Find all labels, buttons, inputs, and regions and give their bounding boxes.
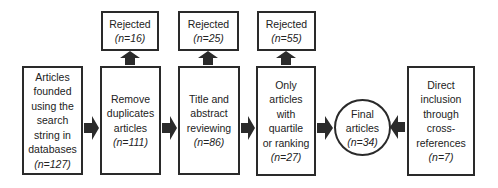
step-remove-duplicates: Remove duplicates articles (n=111)	[100, 66, 161, 175]
direct-text-line: cross-	[427, 121, 456, 136]
direct-inclusion-box: Direct inclusion through cross- referenc…	[407, 66, 475, 176]
step-text-line: articles	[114, 121, 147, 136]
rejected-box-3: Rejected (n=55)	[257, 11, 316, 51]
step-text-line: articles	[269, 92, 302, 107]
step-count: (n=127)	[34, 157, 70, 172]
rejected-label: Rejected	[266, 17, 307, 32]
direct-text-line: inclusion	[421, 92, 462, 107]
arrow-up-icon	[120, 51, 140, 65]
final-articles-circle: Final articles (n=34)	[334, 99, 391, 156]
step-text-line: or ranking	[263, 136, 310, 151]
rejected-box-2: Rejected (n=25)	[178, 11, 239, 51]
arrow-right-icon	[317, 116, 333, 140]
step-text-line: databases	[28, 142, 76, 157]
step-text-line: with	[277, 107, 296, 122]
step-count: (n=27)	[271, 150, 302, 165]
arrow-right-icon	[84, 116, 99, 140]
direct-text-line: through	[423, 107, 459, 122]
rejected-label: Rejected	[188, 17, 229, 32]
rejected-count: (n=25)	[193, 31, 224, 46]
final-text-line: articles	[346, 121, 379, 135]
step-text-line: quartile	[269, 121, 303, 136]
arrow-left-icon	[390, 115, 405, 139]
step-articles-found: Articles founded using the search string…	[22, 66, 83, 175]
rejected-count: (n=16)	[115, 31, 146, 46]
step-text-line: Articles	[35, 70, 69, 85]
step-title-abstract-review: Title and abstract reviewing (n=86)	[178, 66, 240, 175]
direct-text-line: Direct	[427, 78, 454, 93]
rejected-label: Rejected	[109, 17, 150, 32]
rejected-box-1: Rejected (n=16)	[101, 11, 159, 51]
final-text-line: Final	[351, 107, 374, 121]
step-text-line: duplicates	[107, 106, 154, 121]
final-count: (n=34)	[347, 135, 378, 149]
arrow-up-icon	[198, 51, 218, 65]
step-count: (n=86)	[194, 135, 225, 150]
rejected-count: (n=55)	[271, 31, 302, 46]
step-text-line: search	[37, 113, 69, 128]
step-text-line: reviewing	[187, 121, 231, 136]
step-text-line: founded	[34, 84, 72, 99]
step-quartile-ranking: Only articles with quartile or ranking (…	[256, 66, 316, 176]
step-text-line: Remove	[111, 92, 150, 107]
direct-count: (n=7)	[429, 150, 454, 165]
step-text-line: abstract	[190, 106, 227, 121]
step-text-line: using the	[31, 99, 74, 114]
step-text-line: string in	[34, 128, 71, 143]
arrow-right-icon	[162, 116, 177, 140]
arrow-right-icon	[241, 116, 255, 140]
step-text-line: Only	[275, 78, 297, 93]
arrow-up-icon	[276, 51, 296, 65]
step-text-line: Title and	[189, 92, 229, 107]
direct-text-line: references	[416, 136, 466, 151]
step-count: (n=111)	[113, 135, 148, 150]
